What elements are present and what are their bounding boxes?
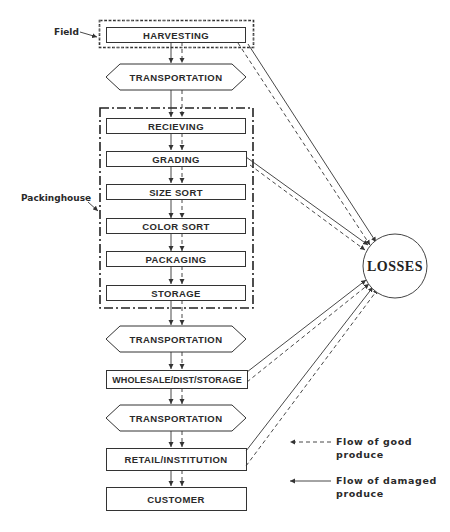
stage-harvesting: HARVESTING — [107, 28, 246, 43]
stage-transportation-3: TRANSPORTATION — [106, 405, 246, 431]
losses-label: LOSSES — [367, 259, 423, 274]
svg-text:TRANSPORTATION: TRANSPORTATION — [130, 413, 223, 424]
svg-text:SIZE SORT: SIZE SORT — [149, 187, 203, 198]
harvesting-damaged-loss-arrow — [248, 44, 376, 242]
grading-good-loss-arrow — [250, 165, 365, 250]
packinghouse-group: Packinghouse — [21, 108, 253, 308]
svg-text:Flow of damaged: Flow of damaged — [336, 475, 437, 486]
svg-text:RETAIL/INSTITUTION: RETAIL/INSTITUTION — [124, 454, 227, 465]
svg-text:GRADING: GRADING — [152, 154, 200, 165]
stage-wholesale-dist-storage: WHOLESALE/DIST/STORAGE — [107, 371, 248, 389]
stage-grading: GRADING — [107, 152, 247, 167]
svg-text:TRANSPORTATION: TRANSPORTATION — [130, 334, 223, 345]
svg-text:WHOLESALE/DIST/STORAGE: WHOLESALE/DIST/STORAGE — [112, 375, 242, 385]
stage-retail-institution: RETAIL/INSTITUTION — [107, 449, 247, 471]
stage-color-sort: COLOR SORT — [107, 219, 246, 234]
field-label: Field — [54, 27, 79, 37]
harvesting-good-loss-arrow — [238, 43, 370, 245]
losses-node: LOSSES — [363, 234, 427, 298]
svg-text:produce: produce — [336, 488, 384, 499]
stage-transportation-2: TRANSPORTATION — [106, 326, 246, 352]
field-pointer-arrow — [80, 32, 97, 37]
legend: Flow of good produce Flow of damaged pro… — [290, 436, 437, 499]
packinghouse-boundary — [100, 108, 253, 308]
svg-text:PACKAGING: PACKAGING — [146, 254, 207, 265]
legend-item-damaged-produce: Flow of damaged produce — [290, 475, 437, 499]
svg-text:STORAGE: STORAGE — [151, 288, 201, 299]
stage-packaging: PACKAGING — [107, 252, 246, 267]
wholesale-good-loss-arrow — [247, 284, 369, 382]
legend-item-good-produce: Flow of good produce — [290, 436, 412, 460]
retail-damaged-loss-arrow — [246, 287, 373, 451]
stage-customer: CUSTOMER — [107, 488, 247, 511]
svg-text:RECIEVING: RECIEVING — [148, 121, 204, 132]
svg-text:TRANSPORTATION: TRANSPORTATION — [130, 72, 223, 83]
svg-text:COLOR SORT: COLOR SORT — [142, 221, 209, 232]
svg-text:CUSTOMER: CUSTOMER — [147, 494, 204, 505]
svg-text:HARVESTING: HARVESTING — [143, 30, 209, 41]
stage-transportation-1: TRANSPORTATION — [106, 64, 246, 90]
wholesale-damaged-loss-arrow — [247, 280, 366, 372]
packinghouse-label: Packinghouse — [21, 193, 91, 203]
stage-storage: STORAGE — [107, 286, 246, 301]
stage-receiving: RECIEVING — [107, 119, 246, 134]
postharvest-flow-diagram: Field Packinghouse HAR — [0, 0, 450, 532]
stage-size-sort: SIZE SORT — [107, 185, 246, 200]
loss-flow-arrows — [238, 43, 378, 466]
packinghouse-pointer-arrow — [88, 202, 98, 211]
svg-text:Flow of good: Flow of good — [336, 436, 412, 447]
svg-text:produce: produce — [336, 449, 384, 460]
